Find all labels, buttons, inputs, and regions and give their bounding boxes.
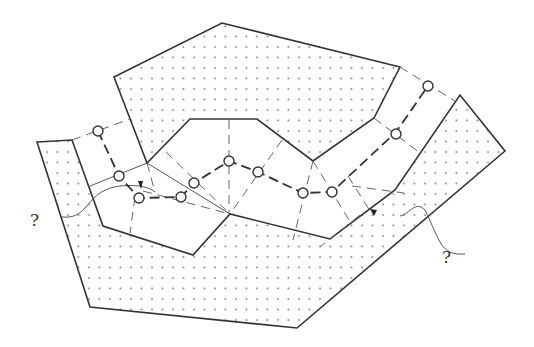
node: [423, 81, 433, 91]
node: [134, 193, 144, 203]
arrow-marker-left: [138, 181, 143, 189]
upper-region: [114, 23, 400, 163]
node: [114, 171, 124, 181]
node: [298, 188, 308, 198]
diagram-canvas: ? ?: [0, 0, 534, 347]
question-label-left: ?: [30, 210, 39, 230]
node: [93, 126, 103, 136]
node: [224, 156, 234, 166]
node: [189, 178, 199, 188]
node: [327, 187, 337, 197]
diagram-svg: [0, 0, 534, 347]
node: [391, 129, 401, 139]
node: [253, 167, 263, 177]
question-label-right: ?: [442, 247, 451, 267]
node: [176, 192, 186, 202]
